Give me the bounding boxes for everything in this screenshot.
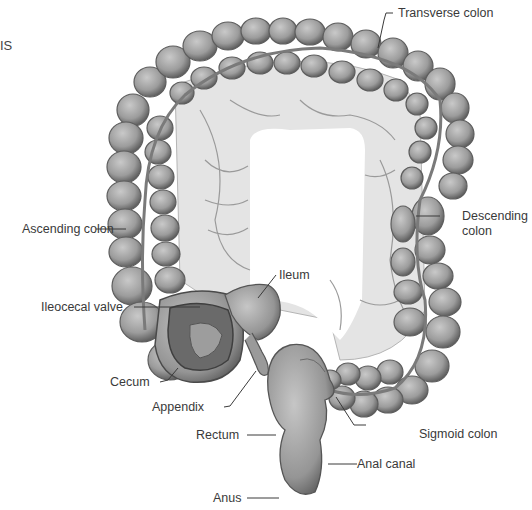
label-descending-colon-line1: Descending xyxy=(462,209,528,223)
label-cecum: Cecum xyxy=(110,375,150,389)
label-ileocecal-valve: Ileocecal valve xyxy=(41,300,123,314)
label-ascending-colon: Ascending colon xyxy=(22,222,114,236)
label-ileum: Ileum xyxy=(279,268,310,282)
label-appendix: Appendix xyxy=(152,400,204,414)
large-intestine-diagram: IS xyxy=(0,0,532,510)
label-anal-canal: Anal canal xyxy=(357,457,415,471)
label-anus: Anus xyxy=(213,491,242,505)
label-rectum: Rectum xyxy=(196,428,239,442)
label-descending-colon-line2: colon xyxy=(462,224,492,238)
rectum-anal-canal xyxy=(268,344,334,494)
label-sigmoid-colon: Sigmoid colon xyxy=(419,427,498,441)
label-transverse-colon: Transverse colon xyxy=(398,6,493,20)
